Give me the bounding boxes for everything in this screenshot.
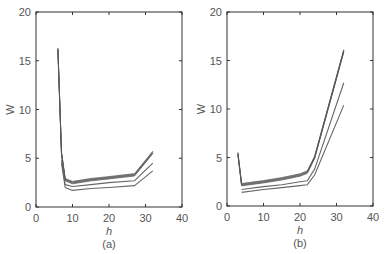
y-tick-label: 15 — [210, 55, 222, 67]
series-line-bundle — [238, 50, 344, 184]
series-line-bundle — [58, 50, 153, 184]
x-tick-label: 20 — [294, 211, 306, 223]
x-tick-label: 40 — [367, 211, 379, 223]
y-axis-label: W — [195, 103, 207, 114]
x-tick-label: 40 — [176, 212, 188, 224]
y-tick-label: 20 — [19, 6, 31, 18]
y-tick-label: 20 — [210, 6, 222, 18]
x-tick-label: 30 — [139, 212, 151, 224]
x-axis-label: h — [297, 224, 303, 236]
panel-caption: (b) — [293, 237, 306, 249]
series-line-bundle — [58, 49, 153, 183]
data-series — [238, 50, 344, 193]
x-tick-label: 20 — [103, 212, 115, 224]
x-tick-label: 0 — [224, 211, 230, 223]
series-line-bundle — [238, 50, 344, 184]
x-tick-label: 30 — [330, 211, 342, 223]
data-series — [58, 48, 153, 191]
y-tick-label: 10 — [210, 103, 222, 115]
x-tick-label: 10 — [66, 212, 78, 224]
series-line — [242, 105, 344, 192]
series-line-bundle — [238, 51, 344, 185]
panel-b: 05101520 010203040 W h (b) — [195, 6, 379, 249]
y-tick-label: 5 — [216, 152, 222, 164]
y-tick-label: 0 — [216, 200, 222, 212]
y-tick-label: 10 — [19, 104, 31, 116]
x-axis-label: h — [106, 225, 112, 237]
y-axis-ticks: 05101520 — [210, 6, 373, 212]
plot-area-frame — [227, 12, 373, 206]
series-line-bundle — [58, 50, 153, 184]
series-line — [242, 83, 344, 190]
x-axis-ticks: 010203040 — [33, 12, 188, 224]
panel-caption: (a) — [102, 238, 115, 250]
y-tick-label: 5 — [25, 152, 31, 164]
y-axis-label: W — [4, 104, 16, 115]
y-tick-label: 0 — [25, 201, 31, 213]
y-axis-ticks: 05101520 — [19, 6, 182, 213]
y-tick-label: 15 — [19, 55, 31, 67]
figure: 05101520 010203040 W h (a) 05101520 0102… — [0, 0, 387, 254]
panel-a: 05101520 010203040 W h (a) — [4, 6, 188, 250]
series-line-bundle — [238, 51, 344, 185]
x-tick-label: 10 — [257, 211, 269, 223]
x-tick-label: 0 — [33, 212, 39, 224]
series-line-bundle — [58, 49, 153, 183]
series-line-bundle — [238, 52, 344, 186]
series-line-bundle — [58, 48, 153, 182]
